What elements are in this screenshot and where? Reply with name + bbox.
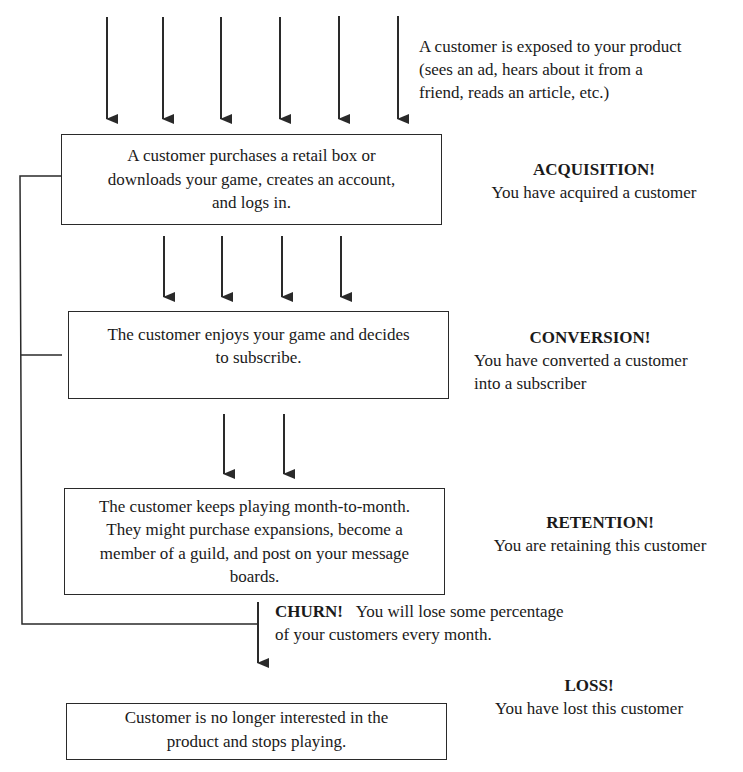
conversion-arrows (224, 414, 284, 474)
loss-label: LOSS! You have lost this customer (478, 674, 700, 720)
box-text-line: member of a guild, and post on your mess… (99, 542, 410, 566)
box-text-line: and logs in. (108, 191, 395, 215)
exposure-arrows (107, 16, 398, 119)
loss-desc: You have lost this customer (478, 697, 700, 720)
box-text-line: The customer keeps playing month-to-mont… (99, 495, 410, 519)
retention-heading: RETENTION! (476, 511, 724, 534)
box-text-line: They might purchase expansions, become a (99, 518, 410, 542)
churn-note: CHURN! You will lose some percentage of … (275, 600, 564, 646)
acquisition-label: ACQUISITION! You have acquired a custome… (476, 158, 712, 204)
conversion-box: The customer enjoys your game and decide… (68, 311, 449, 399)
box-text-line: product and stops playing. (125, 730, 388, 754)
churn-desc: of your customers every month. (275, 623, 564, 646)
conversion-desc: into a subscriber (474, 372, 724, 395)
retention-label: RETENTION! You are retaining this custom… (476, 511, 724, 557)
conversion-label: CONVERSION! You have converted a custome… (474, 326, 724, 395)
box-text-line: Customer is no longer interested in the (125, 706, 388, 730)
conversion-heading: CONVERSION! (474, 326, 706, 349)
conversion-desc: You have converted a customer (474, 349, 724, 372)
box-text-line: The customer enjoys your game and decide… (107, 323, 409, 347)
acquisition-arrows (164, 236, 341, 297)
acquisition-heading: ACQUISITION! (476, 158, 712, 181)
exposure-note-line: friend, reads an article, etc.) (419, 81, 682, 104)
retention-desc: You are retaining this customer (476, 534, 724, 557)
acquisition-box: A customer purchases a retail box or dow… (61, 134, 442, 225)
box-text-line: downloads your game, creates an account, (108, 168, 395, 192)
exposure-note: A customer is exposed to your product (s… (419, 35, 682, 104)
loss-heading: LOSS! (478, 674, 700, 697)
acquisition-desc: You have acquired a customer (476, 181, 712, 204)
box-text-line: to subscribe. (107, 346, 409, 370)
churn-desc: You will lose some percentage (356, 602, 564, 621)
exposure-note-line: (sees an ad, hears about it from a (419, 58, 682, 81)
customer-lifecycle-diagram: A customer is exposed to your product (s… (0, 0, 743, 772)
box-text-line: boards. (99, 565, 410, 589)
loss-box: Customer is no longer interested in the … (66, 703, 447, 760)
box-text-line: A customer purchases a retail box or (108, 144, 395, 168)
churn-heading: CHURN! (275, 602, 343, 621)
retention-box: The customer keeps playing month-to-mont… (64, 488, 445, 595)
exposure-note-line: A customer is exposed to your product (419, 35, 682, 58)
